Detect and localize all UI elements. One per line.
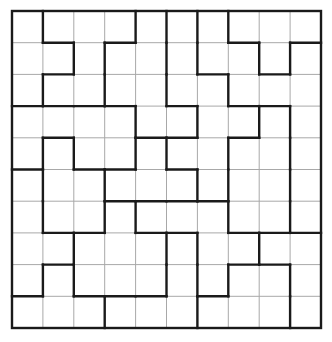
grid-cell[interactable] — [12, 233, 43, 265]
grid-cell[interactable] — [228, 74, 259, 106]
grid-cell[interactable] — [136, 265, 167, 297]
grid-cell[interactable] — [228, 11, 259, 43]
grid-cell[interactable] — [197, 74, 228, 106]
grid-cell[interactable] — [290, 11, 321, 43]
grid-cell[interactable] — [74, 74, 105, 106]
grid-cell[interactable] — [228, 138, 259, 170]
grid-cell[interactable] — [136, 43, 167, 75]
grid-cell[interactable] — [228, 201, 259, 233]
grid-cell[interactable] — [136, 11, 167, 43]
grid-cell[interactable] — [197, 296, 228, 328]
grid-cell[interactable] — [12, 296, 43, 328]
grid-cell[interactable] — [167, 296, 198, 328]
grid-cell[interactable] — [74, 11, 105, 43]
grid-cell[interactable] — [259, 43, 290, 75]
grid-cell[interactable] — [12, 74, 43, 106]
grid-cell[interactable] — [259, 265, 290, 297]
grid-cell[interactable] — [74, 43, 105, 75]
grid-cell[interactable] — [228, 106, 259, 138]
grid-cell[interactable] — [290, 233, 321, 265]
grid-cell[interactable] — [228, 265, 259, 297]
grid-cell[interactable] — [197, 106, 228, 138]
grid-cell[interactable] — [43, 170, 74, 202]
grid-cell[interactable] — [290, 138, 321, 170]
grid-cell[interactable] — [74, 265, 105, 297]
grid-cell[interactable] — [136, 233, 167, 265]
grid-cell[interactable] — [12, 11, 43, 43]
grid-cell[interactable] — [167, 106, 198, 138]
grid-cell[interactable] — [43, 74, 74, 106]
grid-cell[interactable] — [167, 138, 198, 170]
grid-cell[interactable] — [259, 170, 290, 202]
grid-cell[interactable] — [167, 11, 198, 43]
grid-cell[interactable] — [228, 233, 259, 265]
grid-cell[interactable] — [259, 138, 290, 170]
grid-cell[interactable] — [43, 265, 74, 297]
grid-cell[interactable] — [43, 138, 74, 170]
grid-cell[interactable] — [105, 170, 136, 202]
grid-cell[interactable] — [259, 296, 290, 328]
grid-cell[interactable] — [197, 201, 228, 233]
grid-cell[interactable] — [167, 201, 198, 233]
grid-cell[interactable] — [105, 138, 136, 170]
grid-cell[interactable] — [74, 106, 105, 138]
grid-cell[interactable] — [43, 11, 74, 43]
grid-cell[interactable] — [167, 170, 198, 202]
grid-cell[interactable] — [167, 74, 198, 106]
grid-cell[interactable] — [259, 201, 290, 233]
grid-cell[interactable] — [259, 106, 290, 138]
grid-cell[interactable] — [136, 138, 167, 170]
grid-cell[interactable] — [290, 74, 321, 106]
grid-cell[interactable] — [74, 233, 105, 265]
grid-cell[interactable] — [12, 201, 43, 233]
grid-cell[interactable] — [290, 43, 321, 75]
grid-cell[interactable] — [228, 43, 259, 75]
grid-cell[interactable] — [197, 138, 228, 170]
grid-cell[interactable] — [74, 296, 105, 328]
grid-cell[interactable] — [259, 11, 290, 43]
grid-cell[interactable] — [12, 265, 43, 297]
grid-cell[interactable] — [12, 43, 43, 75]
grid-cell[interactable] — [228, 296, 259, 328]
grid-cell[interactable] — [105, 201, 136, 233]
grid-cell[interactable] — [105, 265, 136, 297]
grid-cell[interactable] — [259, 233, 290, 265]
grid-cell[interactable] — [136, 296, 167, 328]
grid-cell[interactable] — [43, 43, 74, 75]
grid-cell[interactable] — [197, 265, 228, 297]
grid-cell[interactable] — [167, 265, 198, 297]
grid-cell[interactable] — [290, 201, 321, 233]
grid-cell[interactable] — [197, 170, 228, 202]
grid-cell[interactable] — [105, 11, 136, 43]
grid-cell[interactable] — [290, 265, 321, 297]
grid-cell[interactable] — [167, 43, 198, 75]
grid-cell[interactable] — [136, 170, 167, 202]
grid-cell[interactable] — [105, 74, 136, 106]
grid-cell[interactable] — [136, 106, 167, 138]
grid-cell[interactable] — [12, 106, 43, 138]
grid-cell[interactable] — [43, 233, 74, 265]
grid-cell[interactable] — [105, 43, 136, 75]
grid-cell[interactable] — [197, 233, 228, 265]
grid-cell[interactable] — [74, 170, 105, 202]
grid-cell[interactable] — [43, 106, 74, 138]
grid-cell[interactable] — [290, 106, 321, 138]
grid-cell[interactable] — [167, 233, 198, 265]
grid-cell[interactable] — [197, 43, 228, 75]
grid-cell[interactable] — [105, 106, 136, 138]
grid-cell[interactable] — [43, 201, 74, 233]
grid-cell[interactable] — [136, 74, 167, 106]
grid-cell[interactable] — [105, 296, 136, 328]
grid-cell[interactable] — [259, 74, 290, 106]
grid-cell[interactable] — [105, 233, 136, 265]
grid-cell[interactable] — [290, 170, 321, 202]
grid-cell[interactable] — [74, 138, 105, 170]
grid-cell[interactable] — [290, 296, 321, 328]
grid-cell[interactable] — [74, 201, 105, 233]
grid-cell[interactable] — [12, 170, 43, 202]
grid-cell[interactable] — [136, 201, 167, 233]
grid-cell[interactable] — [43, 296, 74, 328]
grid-cell[interactable] — [197, 11, 228, 43]
grid-cell[interactable] — [228, 170, 259, 202]
grid-cell[interactable] — [12, 138, 43, 170]
